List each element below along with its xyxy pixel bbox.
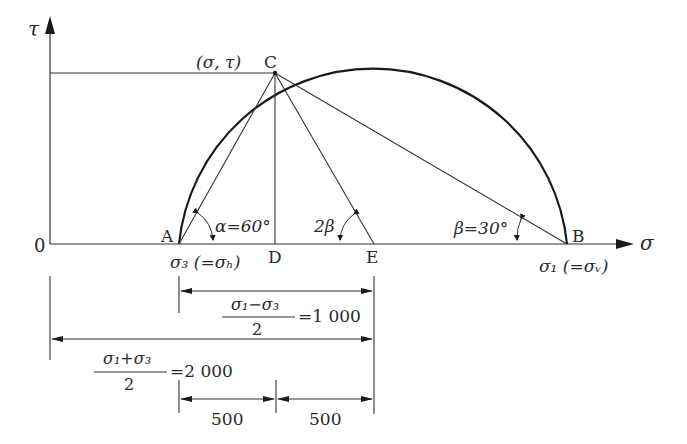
alpha-angle-arc <box>198 213 213 240</box>
segment-right-label: 500 <box>309 409 341 429</box>
point-c-coord-label: (σ, τ) <box>196 52 241 72</box>
segment-left-label: 500 <box>211 409 243 429</box>
svg-text:σ₁−σ₃: σ₁−σ₃ <box>231 295 279 314</box>
svg-text:2: 2 <box>252 320 262 339</box>
beta-angle-label: β=30° <box>453 218 508 238</box>
svg-text:σ₁+σ₃: σ₁+σ₃ <box>103 349 151 368</box>
sigma-axis <box>50 239 634 249</box>
extension-lines <box>50 276 374 414</box>
sigma1-label: σ₁ (=σᵥ) <box>539 256 608 276</box>
mohr-circle-diagram: τ σ 0 (σ, τ) C A B D E σ₃ (=σₕ) σ₁ (=σᵥ)… <box>0 0 687 444</box>
tau-axis-label: τ <box>28 17 40 41</box>
svg-text:=2 000: =2 000 <box>170 361 233 381</box>
sigma-axis-label: σ <box>640 231 655 255</box>
half-difference-formula: σ₁−σ₃ 2 =1 000 <box>222 295 361 339</box>
origin-label: 0 <box>34 235 45 256</box>
two-beta-angle-arc <box>340 214 354 240</box>
point-b-label: B <box>572 226 585 246</box>
beta-angle-arc <box>517 219 521 240</box>
half-sum-formula: σ₁+σ₃ 2 =2 000 <box>94 349 233 394</box>
point-a-label: A <box>160 226 174 246</box>
two-beta-angle-label: 2β <box>313 216 335 236</box>
alpha-angle-label: α=60° <box>215 216 271 236</box>
svg-text:=1 000: =1 000 <box>298 306 361 326</box>
tau-axis <box>45 16 55 244</box>
point-c-label: C <box>264 52 277 72</box>
point-d-label: D <box>268 247 282 267</box>
svg-text:2: 2 <box>124 375 134 394</box>
sigma3-label: σ₃ (=σₕ) <box>170 252 240 272</box>
point-e-label: E <box>366 247 378 267</box>
